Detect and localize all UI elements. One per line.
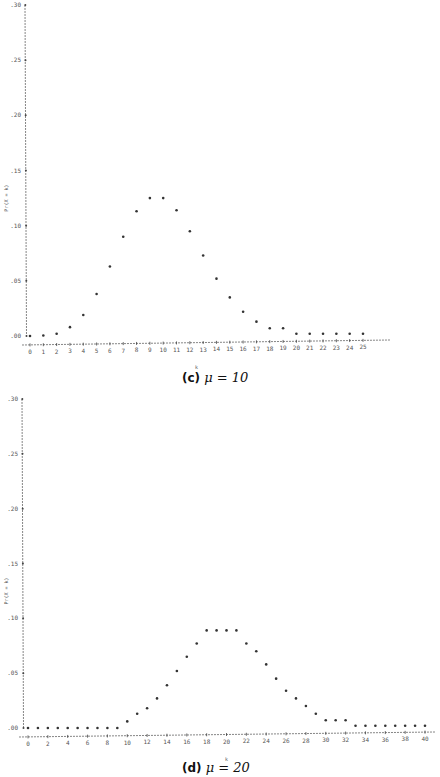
data-point bbox=[322, 332, 325, 335]
x-tick-label: 22 bbox=[243, 737, 251, 744]
y-tick-mark bbox=[21, 398, 23, 400]
x-tick-label: 20 bbox=[293, 344, 301, 351]
x-tick-label: 30 bbox=[322, 736, 330, 743]
data-point bbox=[47, 727, 50, 730]
y-tick-mark bbox=[25, 59, 27, 61]
caption-c-label: (c) bbox=[182, 371, 200, 385]
x-tick-label: 9 bbox=[148, 346, 152, 353]
caption-c-math: μ = 10 bbox=[204, 370, 248, 385]
data-point bbox=[69, 326, 72, 329]
data-point bbox=[308, 332, 311, 335]
data-point bbox=[186, 655, 189, 658]
x-tick-label: 3 bbox=[68, 347, 72, 354]
data-point bbox=[66, 727, 69, 730]
x-tick-label: 4 bbox=[81, 347, 85, 354]
data-point bbox=[242, 310, 245, 313]
y-tick-mark bbox=[22, 508, 24, 510]
data-point bbox=[86, 727, 89, 730]
y-tick-label: .05 bbox=[10, 277, 21, 284]
x-axis bbox=[19, 732, 435, 737]
caption-c: (c) μ = 10 bbox=[182, 370, 248, 385]
x-tick-label: 1 bbox=[42, 348, 46, 355]
x-tick-label: 12 bbox=[186, 346, 194, 353]
y-tick-mark bbox=[26, 335, 28, 337]
y-tick-label: .05 bbox=[7, 669, 18, 676]
data-point bbox=[82, 314, 85, 317]
data-point bbox=[162, 197, 165, 200]
y-tick-mark bbox=[22, 672, 24, 674]
y-tick-mark bbox=[22, 563, 24, 565]
y-tick-mark bbox=[25, 280, 27, 282]
data-point bbox=[29, 335, 32, 338]
y-tick-mark bbox=[22, 453, 24, 455]
y-tick-label: .15 bbox=[7, 560, 18, 567]
data-point bbox=[109, 265, 112, 268]
x-tick-label: 12 bbox=[143, 738, 151, 745]
data-point bbox=[95, 293, 98, 296]
data-point bbox=[27, 727, 30, 730]
x-tick-label: 18 bbox=[203, 738, 211, 745]
data-point bbox=[255, 320, 258, 323]
caption-d: (d) μ = 20 bbox=[182, 760, 250, 775]
data-point bbox=[305, 705, 308, 708]
data-point bbox=[37, 727, 40, 730]
data-point bbox=[195, 642, 198, 645]
data-point bbox=[189, 230, 192, 233]
data-point bbox=[126, 720, 129, 723]
x-tick-label: 16 bbox=[240, 345, 248, 352]
x-tick-label: 14 bbox=[213, 345, 221, 352]
data-point bbox=[315, 712, 318, 715]
x-tick-label: 18 bbox=[266, 345, 274, 352]
caption-d-math: μ = 20 bbox=[206, 760, 250, 775]
data-point bbox=[225, 629, 228, 632]
data-point bbox=[255, 650, 258, 653]
data-point bbox=[295, 697, 298, 700]
data-point bbox=[354, 725, 357, 728]
y-tick-label: .15 bbox=[10, 167, 21, 174]
y-axis-label: Pr(X = k) bbox=[3, 577, 9, 604]
data-point bbox=[394, 725, 397, 728]
y-tick-label: .00 bbox=[10, 332, 21, 339]
x-tick-label: 4 bbox=[66, 739, 70, 746]
data-point bbox=[106, 727, 109, 730]
y-tick-label: .30 bbox=[7, 395, 18, 402]
data-point bbox=[149, 197, 152, 200]
x-tick-label: 17 bbox=[253, 345, 261, 352]
x-tick-label: 23 bbox=[333, 344, 341, 351]
x-tick-label: 8 bbox=[106, 739, 110, 746]
y-axis-label: Pr(X = k) bbox=[3, 185, 9, 212]
y-tick-label: .25 bbox=[10, 56, 21, 63]
x-tick-label: 6 bbox=[108, 347, 112, 354]
data-point bbox=[42, 334, 45, 337]
x-tick-label: 16 bbox=[183, 738, 191, 745]
x-tick-label: 38 bbox=[402, 735, 410, 742]
data-point bbox=[374, 725, 377, 728]
x-tick-label: 15 bbox=[226, 345, 234, 352]
y-tick-mark bbox=[24, 4, 26, 6]
x-tick-label: 6 bbox=[86, 739, 90, 746]
x-tick-label: 26 bbox=[282, 737, 290, 744]
data-point bbox=[282, 327, 285, 330]
y-tick-mark bbox=[25, 225, 27, 227]
data-point bbox=[268, 327, 271, 330]
data-point bbox=[76, 727, 79, 730]
data-point bbox=[424, 725, 427, 728]
x-tick-label: 10 bbox=[160, 346, 168, 353]
data-point bbox=[122, 235, 125, 238]
chart-mu-20: .00.05.10.15.20.25.30Pr(X = k)0246810121… bbox=[0, 390, 440, 777]
x-tick-label: 25 bbox=[359, 343, 367, 350]
data-point bbox=[175, 209, 178, 212]
data-point bbox=[156, 697, 159, 700]
data-point bbox=[135, 210, 138, 213]
x-tick-label: 20 bbox=[223, 738, 231, 745]
x-tick-label: 22 bbox=[319, 344, 327, 351]
y-tick-label: .25 bbox=[7, 450, 18, 457]
data-point bbox=[202, 254, 205, 257]
x-tick-label: 0 bbox=[26, 740, 30, 747]
x-tick-label: 32 bbox=[342, 736, 350, 743]
data-point bbox=[136, 712, 139, 715]
data-point bbox=[362, 332, 365, 335]
data-point bbox=[146, 707, 149, 710]
x-tick-label: 10 bbox=[124, 739, 132, 746]
data-point bbox=[215, 277, 218, 280]
